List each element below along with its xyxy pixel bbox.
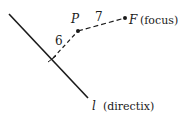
directrix-caption-label: (directix) (103, 100, 154, 113)
parabola-definition-diagram: P 6 7 F (focus) l (directix) (0, 0, 182, 118)
focus-symbol-label: F (128, 13, 138, 27)
directrix-line (9, 14, 88, 98)
point-p-dot (76, 29, 80, 33)
focus-caption-label: (focus) (140, 14, 178, 27)
point-p-label: P (70, 12, 80, 26)
distance-p-to-focus-label: 7 (95, 10, 103, 24)
distance-p-to-directrix-label: 6 (55, 34, 63, 48)
focus-dot (123, 16, 127, 20)
directrix-symbol-label: l (92, 99, 96, 113)
